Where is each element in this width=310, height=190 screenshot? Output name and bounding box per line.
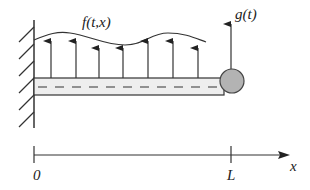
fixed-wall <box>19 20 34 128</box>
tip-mass <box>220 69 244 93</box>
x-axis <box>34 146 290 163</box>
origin-label: 0 <box>33 167 41 183</box>
tip-force-label: g(t) <box>235 6 257 23</box>
length-label: L <box>226 167 235 183</box>
axis-label: x <box>289 158 297 174</box>
distributed-load-arrows <box>51 41 198 78</box>
distributed-load-curve <box>34 32 206 45</box>
beam <box>34 78 224 95</box>
cantilever-beam-diagram: f(t,x) g(t) 0 L x <box>0 0 310 190</box>
distributed-load-label: f(t,x) <box>82 14 111 31</box>
